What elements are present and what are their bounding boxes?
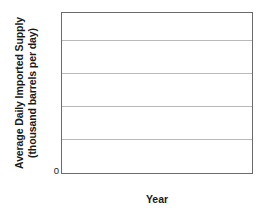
chart-figure: Average Daily Imported Supply (thousand … xyxy=(0,0,268,212)
y-axis-label-text: Average Daily Imported Supply (thousand … xyxy=(13,17,39,169)
gridline-2 xyxy=(62,73,252,74)
gridline-1 xyxy=(62,40,252,41)
gridline-4 xyxy=(62,139,252,140)
plot-area xyxy=(61,12,253,174)
y-axis-tick-zero: 0 xyxy=(47,165,59,177)
y-axis-label-line-1: Average Daily Imported Supply xyxy=(13,17,26,169)
y-axis-label-line-2: (thousand barrels per day) xyxy=(26,17,39,169)
y-axis-label: Average Daily Imported Supply (thousand … xyxy=(0,0,52,186)
gridline-3 xyxy=(62,106,252,107)
x-axis-label: Year xyxy=(61,193,253,206)
